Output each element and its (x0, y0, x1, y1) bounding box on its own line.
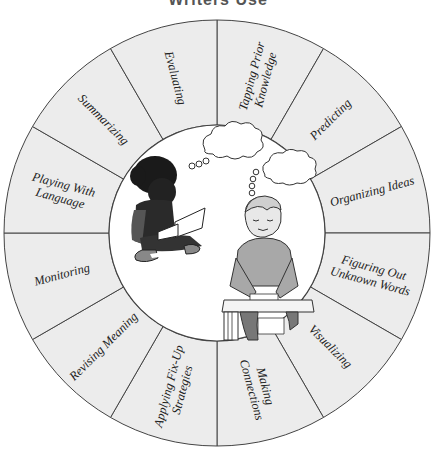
strategy-wheel: Tapping PriorKnowledgePredictingOrganizi… (0, 0, 436, 461)
